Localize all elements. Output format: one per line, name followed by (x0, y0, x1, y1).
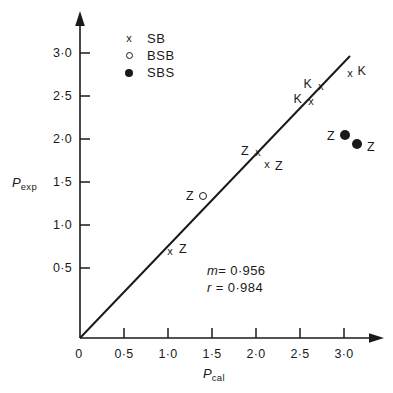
x-tick-label-1-0: 1·0 (159, 347, 178, 361)
data-point-label-sb-2: Z (241, 144, 249, 158)
correlation-symbol: r (207, 280, 212, 295)
correlation-annotation: r = 0·984 (207, 279, 266, 296)
data-point-marker-sb-5: x (318, 81, 324, 92)
x-tick-label-0-5: 0·5 (115, 347, 134, 361)
x-tick-label-1-5: 1·5 (203, 347, 222, 361)
legend-item-sb: x SB (118, 30, 175, 47)
x-axis-arrowhead (369, 333, 384, 343)
data-point-marker-bsb-1 (199, 192, 207, 200)
y-axis-title-subscript: exp (21, 181, 38, 192)
y-tick-label-3-0: 3·0 (34, 46, 72, 60)
legend-label-sb: SB (140, 31, 166, 46)
y-tick-label-0-5: 0·5 (34, 261, 72, 275)
legend-item-sbs: SBS (118, 64, 175, 81)
data-point-marker-sb-4: x (308, 96, 314, 107)
stats-annotation-block: m= 0·956 r = 0·984 (207, 262, 266, 296)
slope-equals: = (218, 263, 226, 278)
y-tick-label-1-0: 1·0 (34, 218, 72, 232)
x-axis-ticks (124, 328, 344, 338)
data-point-label-sb-6: K (358, 64, 367, 78)
y-axis-arrowhead (75, 11, 85, 26)
y-axis-title-base: P (12, 175, 21, 190)
x-axis-title-subscript: cal (212, 372, 225, 383)
data-point-marker-sb-3: x (264, 159, 270, 170)
cross-marker-icon: x (118, 33, 140, 44)
slope-annotation: m= 0·956 (207, 262, 266, 279)
legend-label-bsb: BSB (140, 48, 175, 63)
legend: x SB BSB SBS (118, 30, 175, 81)
x-tick-label-0: 0 (75, 347, 82, 361)
open-circle-marker-icon (118, 52, 140, 59)
y-axis-title: Pexp (12, 175, 37, 190)
slope-symbol: m (207, 263, 218, 278)
data-point-label-sbs-2: Z (367, 140, 375, 154)
x-tick-label-2-5: 2·5 (291, 347, 310, 361)
y-tick-label-1-5: 1·5 (34, 175, 72, 189)
data-point-marker-sb-2: x (255, 147, 261, 158)
y-axis-ticks (80, 53, 90, 268)
slope-value: 0·956 (230, 263, 265, 278)
data-point-marker-sb-6: x (347, 68, 353, 79)
data-point-label-bsb-1: Z (186, 189, 194, 203)
data-point-label-sb-1: Z (179, 242, 187, 256)
legend-item-bsb: BSB (118, 47, 175, 64)
x-axis-title-base: P (203, 366, 212, 381)
x-axis-title: Pcal (203, 366, 225, 381)
scatter-plot-figure: 3·0 2·5 2·0 1·5 1·0 0·5 0 0·5 1·0 1·5 2·… (0, 0, 393, 393)
x-tick-label-2-0: 2·0 (247, 347, 266, 361)
data-point-label-sb-3: Z (275, 159, 283, 173)
data-point-label-sb-4: K (294, 92, 303, 106)
legend-label-sbs: SBS (140, 65, 175, 80)
data-point-label-sbs-1: Z (327, 129, 335, 143)
data-point-marker-sbs-2 (352, 139, 362, 149)
y-tick-label-2-0: 2·0 (34, 132, 72, 146)
data-point-marker-sb-1: x (167, 246, 173, 257)
data-point-marker-sbs-1 (340, 130, 350, 140)
data-point-label-sb-5: K (304, 77, 313, 91)
correlation-value: 0·984 (228, 280, 263, 295)
filled-circle-marker-icon (118, 69, 140, 77)
x-tick-label-3-0: 3·0 (335, 347, 354, 361)
correlation-equals: = (216, 280, 224, 295)
y-tick-label-2-5: 2·5 (34, 89, 72, 103)
